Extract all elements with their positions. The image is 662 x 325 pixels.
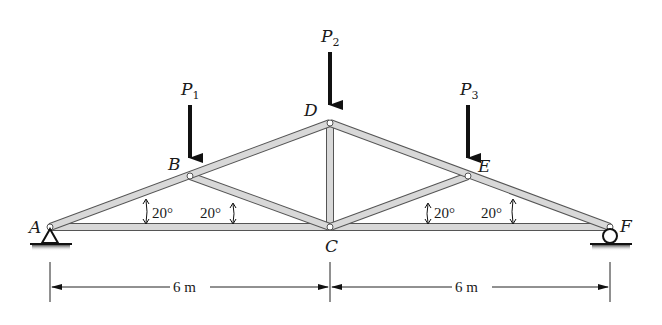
arrow-left-icon (51, 284, 62, 290)
load-P2-name: P (320, 26, 333, 46)
angle-label-2: 20° (200, 205, 221, 221)
pin-C (327, 224, 333, 230)
angle-marker-1: 20° (143, 199, 173, 224)
arrow-right-icon (598, 284, 609, 290)
load-P3-sub: 3 (471, 89, 478, 102)
dimension-AC: 6 m (51, 279, 329, 295)
dimension-CF: 6 m (331, 279, 609, 295)
joint-label-A: A (27, 217, 41, 237)
angle-marker-3: 20° (425, 203, 455, 224)
angle-marker-2: 20° (200, 203, 236, 224)
pin-E (465, 173, 471, 179)
arrow-left-icon (331, 284, 342, 290)
pin-D (327, 120, 333, 126)
load-P2-sub: 2 (332, 36, 339, 49)
joint-label-B: B (167, 154, 181, 174)
angle-label-4: 20° (481, 205, 502, 221)
truss-members (50, 123, 610, 227)
dimension-label-AC: 6 m (173, 279, 196, 295)
truss-diagram: P1 P2 P3 A B C D E F 20° 20° (0, 0, 662, 325)
arrow-right-icon (318, 284, 329, 290)
joint-label-C: C (325, 236, 338, 256)
load-P3: P3 (459, 79, 478, 158)
dimension-lines: 6 m 6 m (50, 262, 610, 302)
angle-label-1: 20° (152, 205, 173, 221)
svg-text:P1: P1 (180, 79, 199, 102)
joint-label-F: F (619, 216, 633, 236)
joint-label-D: D (303, 100, 318, 120)
load-P3-name: P (459, 79, 472, 99)
load-P1-name: P (180, 79, 193, 99)
joint-label-E: E (477, 156, 491, 176)
angle-label-3: 20° (434, 205, 455, 221)
angle-marker-4: 20° (481, 199, 516, 224)
pin-B (187, 173, 193, 179)
svg-text:P3: P3 (459, 79, 478, 102)
load-P1: P1 (180, 79, 199, 158)
load-P1-sub: 1 (192, 89, 199, 102)
load-P2: P2 (320, 26, 339, 105)
dimension-label-CF: 6 m (455, 279, 478, 295)
svg-text:P2: P2 (320, 26, 339, 49)
